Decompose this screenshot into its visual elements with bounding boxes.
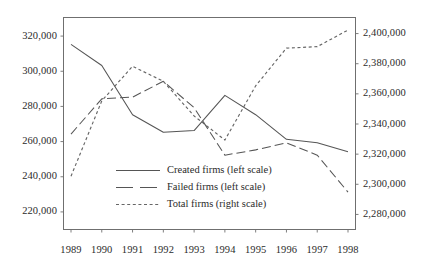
legend-label: Failed firms (left scale): [167, 181, 265, 193]
right-axis-tick-label: 2,340,000: [363, 118, 406, 129]
legend-label: Created firms (left scale): [167, 164, 272, 176]
legend-item: Total firms (right scale): [116, 196, 316, 212]
right-axis-tick-label: 2,320,000: [363, 148, 406, 159]
left-axis-tick-label: 260,000: [22, 135, 57, 146]
left-axis-tick-label: 240,000: [22, 170, 57, 181]
right-axis-tick-label: 2,380,000: [363, 57, 406, 68]
x-axis-tick-label: 1998: [324, 244, 372, 255]
right-axis-tick-label: 2,400,000: [363, 27, 406, 38]
legend-swatch-dotted-icon: [116, 199, 160, 209]
right-axis-tick-label: 2,300,000: [363, 178, 406, 189]
legend-swatch-dashed-icon: [116, 182, 160, 192]
legend-item: Failed firms (left scale): [116, 179, 316, 195]
left-axis-tick-label: 320,000: [22, 30, 57, 41]
right-axis-tick-label: 2,280,000: [363, 208, 406, 219]
right-axis-tick-label: 2,360,000: [363, 87, 406, 98]
legend-item: Created firms (left scale): [116, 162, 316, 178]
legend-swatch-solid-icon: [116, 165, 160, 175]
chart-plot-area: [0, 0, 427, 272]
chart-figure: 220,000240,000260,000280,000300,000320,0…: [0, 0, 427, 272]
left-axis-tick-label: 220,000: [22, 205, 57, 216]
legend-label: Total firms (right scale): [167, 198, 266, 210]
left-axis-tick-label: 280,000: [22, 100, 57, 111]
chart-legend: Created firms (left scale)Failed firms (…: [116, 162, 316, 213]
left-axis-tick-label: 300,000: [22, 65, 57, 76]
